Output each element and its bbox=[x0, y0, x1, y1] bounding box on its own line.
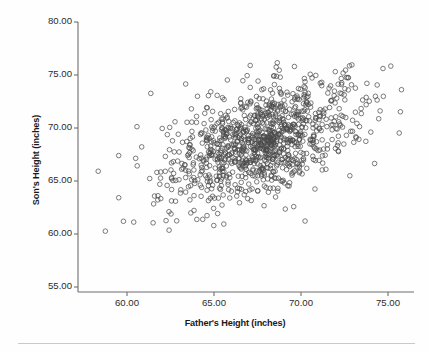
footer-divider bbox=[18, 343, 415, 344]
plot-canvas bbox=[0, 0, 429, 353]
scatter-plot-figure: Son's Height (inches) 55.0060.0065.0070.… bbox=[0, 0, 429, 353]
data-point-group bbox=[96, 60, 404, 233]
